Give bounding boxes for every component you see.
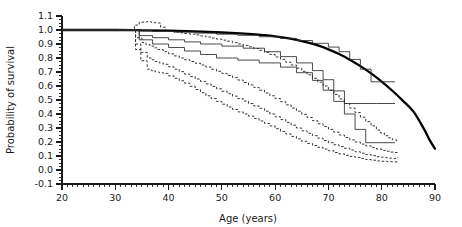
x-tick-label: 80 — [376, 192, 388, 203]
series-curve-7: Confidence limit D (lowest dashed) — [62, 30, 398, 162]
x-tick-label: 40 — [163, 192, 175, 203]
y-axis-title: Probability of survival — [5, 46, 16, 154]
series-curve-5: Confidence limit B (middle dashed) — [62, 30, 398, 153]
x-tick-label: 20 — [56, 192, 68, 203]
y-tick-label: 0.9 — [38, 38, 53, 49]
x-tick-label: 90 — [429, 192, 441, 203]
y-tick-label: 0.7 — [38, 66, 53, 77]
y-tick-label: 1.1 — [38, 10, 53, 21]
y-tick-label: 0.2 — [38, 136, 53, 147]
x-axis — [62, 184, 435, 190]
y-axis — [56, 16, 62, 184]
y-tick-label: 0.3 — [38, 122, 53, 133]
chart-canvas: Reference population survivalSurvival es… — [0, 0, 462, 227]
y-tick-labels: -0.10.00.10.20.30.40.50.60.70.80.91.01.1 — [34, 10, 53, 189]
series-curve-6: Confidence limit C (lower dashed) — [62, 30, 398, 159]
x-axis-title: Age (years) — [219, 213, 277, 224]
y-tick-label: 0.1 — [38, 150, 53, 161]
plot-curves: Reference population survivalSurvival es… — [62, 22, 435, 162]
y-tick-label: 0.8 — [38, 52, 53, 63]
y-tick-label: 0.4 — [38, 108, 53, 119]
x-tick-label: 30 — [109, 192, 121, 203]
x-tick-label: 70 — [322, 192, 334, 203]
series-curve-4: Confidence limit A (upper dashed) — [62, 22, 398, 142]
y-tick-label: 0.0 — [38, 164, 53, 175]
y-tick-label: 1.0 — [38, 24, 53, 35]
y-tick-label: 0.5 — [38, 94, 53, 105]
x-tick-label: 60 — [269, 192, 281, 203]
survival-curve-figure: Reference population survivalSurvival es… — [0, 0, 462, 227]
x-tick-labels: 2030405060708090 — [56, 192, 441, 203]
series-curve-3: Survival estimate group 3 (lower solid s… — [62, 30, 395, 143]
y-tick-label: 0.6 — [38, 80, 53, 91]
y-tick-label: -0.1 — [34, 178, 53, 189]
x-tick-label: 50 — [216, 192, 228, 203]
